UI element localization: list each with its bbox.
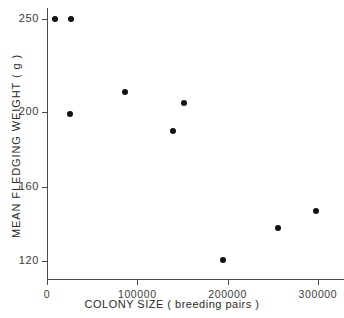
y-tick (42, 19, 47, 20)
y-tick-label: 250 (19, 12, 39, 24)
x-tick (228, 280, 229, 285)
data-point (220, 257, 226, 263)
data-point (275, 225, 281, 231)
y-tick (42, 112, 47, 113)
x-tick (47, 280, 48, 285)
x-axis-title: COLONY SIZE ( breeding pairs ) (0, 298, 344, 310)
data-point (68, 16, 74, 22)
y-tick (42, 261, 47, 262)
x-tick (137, 280, 138, 285)
plot-area (47, 8, 344, 280)
x-tick (318, 280, 319, 285)
scatter-plot-figure: 120160200250 0100000200000300000 COLONY … (0, 0, 344, 318)
data-point (52, 16, 58, 22)
data-point (67, 111, 73, 117)
data-point (313, 208, 319, 214)
x-axis-line (47, 279, 344, 280)
y-tick (42, 187, 47, 188)
y-axis-title: MEAN FLEDGING WEIGHT ( g ) (10, 26, 22, 266)
data-point (122, 89, 128, 95)
data-point (170, 128, 176, 134)
y-axis-line (47, 8, 48, 280)
data-point (181, 100, 187, 106)
